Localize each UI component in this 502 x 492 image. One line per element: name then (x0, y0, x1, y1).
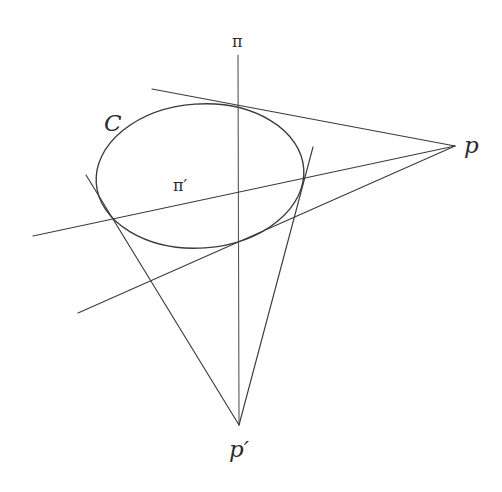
tangent-line-from-p-upper (152, 89, 455, 146)
tangent-line-from-p-prime-left (86, 175, 239, 425)
label-point-p: p (464, 134, 479, 157)
line-pi (238, 55, 239, 425)
label-plane-pi-prime: π′ (173, 178, 187, 194)
tangent-line-from-p-prime-right (239, 147, 313, 425)
tangent-line-from-p-lower (78, 146, 455, 313)
label-plane-pi: π (232, 34, 243, 50)
geometry-drawing (0, 0, 502, 492)
conic-ellipse-c (91, 97, 309, 255)
figure-canvas: π π′ p p′ C (0, 0, 502, 492)
label-point-p-prime: p′ (229, 438, 249, 461)
label-conic-c: C (104, 112, 122, 135)
